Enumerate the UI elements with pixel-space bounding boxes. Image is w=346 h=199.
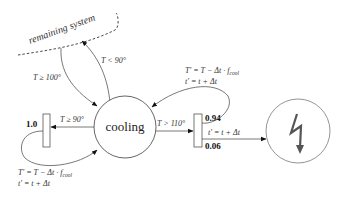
right-branch-box bbox=[194, 114, 202, 147]
left-branch-probability: 1.0 bbox=[26, 119, 38, 129]
right-branch-probability-bottom: 0.06 bbox=[205, 141, 221, 151]
left-update-line2: t′ = t + Δt bbox=[18, 179, 51, 188]
left-branch-box bbox=[43, 114, 50, 147]
cooling-state-diagram: remaining system T < 90° T ≥ 100° coolin… bbox=[0, 0, 346, 199]
edge-from-system-label: T ≥ 100° bbox=[33, 73, 62, 82]
cooling-node: cooling bbox=[94, 96, 156, 158]
edge-to-system-label: T < 90° bbox=[101, 56, 127, 65]
edge-to-failure-label: t′ = t + Δt bbox=[208, 128, 241, 137]
left-update-line1: T′ = T − Δt · fcool bbox=[18, 168, 72, 178]
edge-left-loop bbox=[21, 131, 97, 166]
edge-to-system bbox=[82, 41, 110, 103]
edge-to-right-branch-label: T > 110° bbox=[157, 119, 186, 128]
failure-node bbox=[266, 99, 330, 163]
right-update-line1: T′ = T − Δt · fcool bbox=[185, 66, 239, 76]
system-boundary-label: remaining system bbox=[27, 12, 96, 46]
right-update-line2: t′ = t + Δt bbox=[185, 77, 218, 86]
edge-from-system bbox=[61, 48, 97, 106]
svg-text:cooling: cooling bbox=[106, 119, 145, 134]
edge-to-left-branch-label: T ≥ 90° bbox=[60, 115, 85, 124]
